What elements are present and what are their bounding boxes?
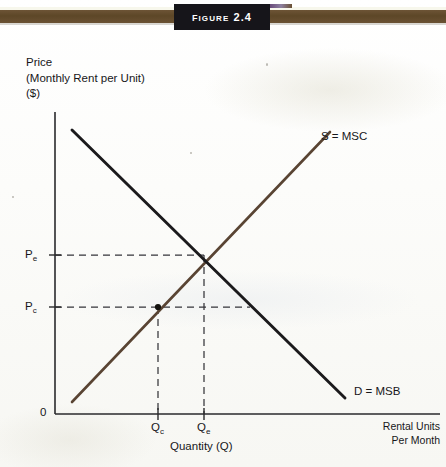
y-tick-label-pe: Pe [25, 248, 37, 260]
figure-page: Figure 2.4 Price (Monthly Rent per Unit)… [0, 0, 446, 467]
supply-curve [72, 132, 330, 402]
x-axis-title-center: Quantity (Q) [170, 440, 233, 452]
origin-label: 0 [40, 406, 46, 418]
demand-curve-label: D = MSB [354, 385, 400, 397]
x-tick-label-qc: Qc [151, 421, 164, 433]
ceiling-point-marker [155, 304, 161, 310]
x-axis-title-right: Rental Units Per Month [330, 420, 440, 447]
y-tick-label-pc: Pc [25, 300, 37, 312]
x-tick-label-qe: Qe [197, 421, 210, 433]
scan-speck-2 [190, 152, 192, 154]
scan-speck-1 [266, 63, 268, 66]
scan-speck-3 [12, 196, 14, 198]
supply-curve-label: S = MSC [321, 130, 367, 142]
